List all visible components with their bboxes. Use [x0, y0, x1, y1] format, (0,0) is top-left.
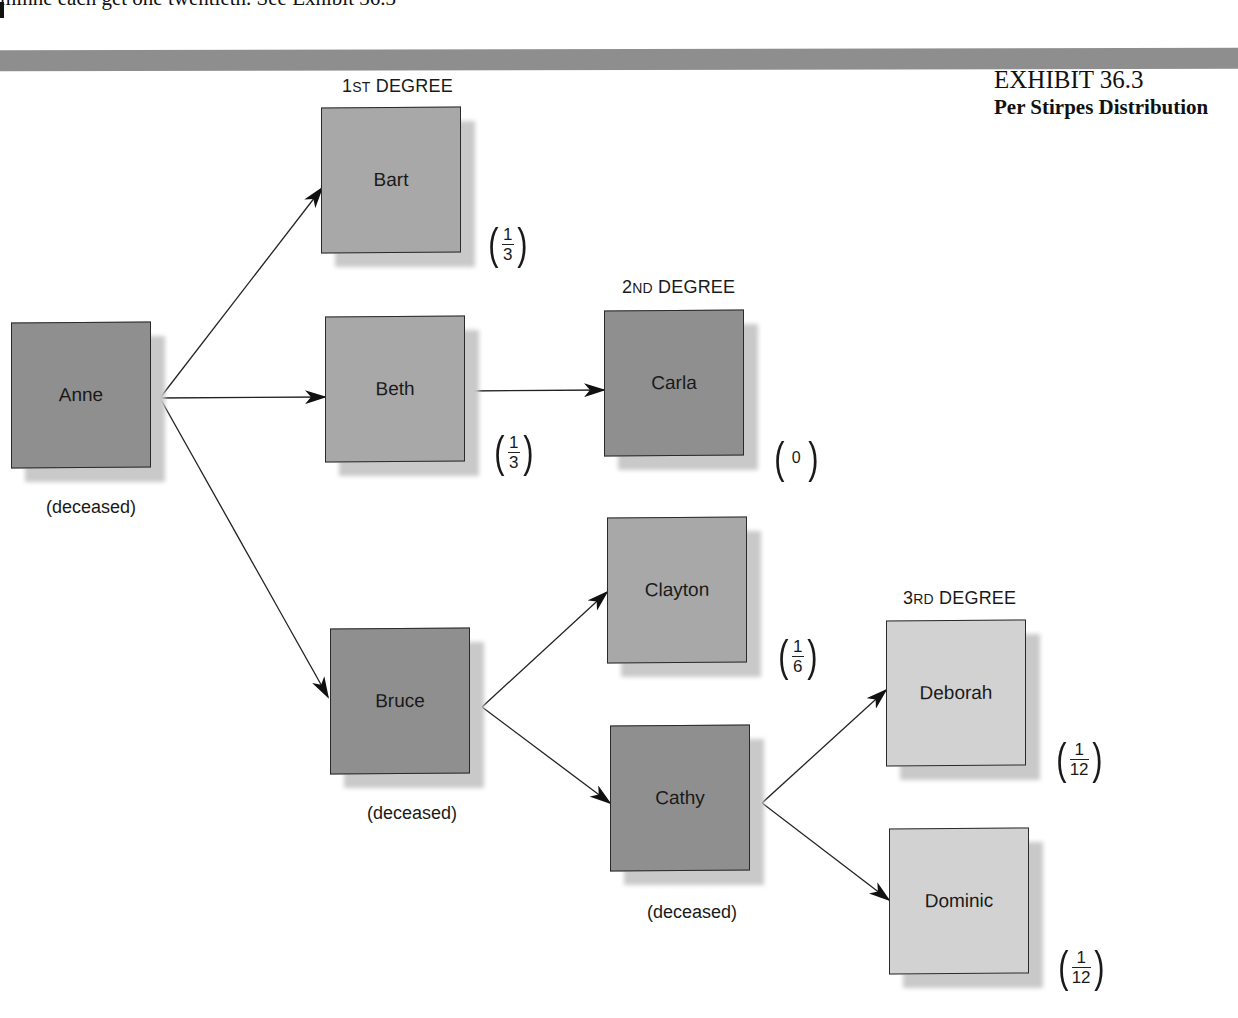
heading-first-degree: 1ST DEGREE: [342, 76, 453, 97]
arrow-anne-bart: [160, 188, 322, 398]
node-bart: Bart: [321, 107, 461, 253]
person-name: Cathy: [655, 787, 705, 809]
share-beth: ( 13 ): [492, 430, 535, 474]
numerator: 1: [1076, 948, 1085, 967]
person-name: Dominic: [925, 890, 994, 912]
person-box: Deborah: [886, 620, 1026, 767]
arrow-bruce-clayton: [482, 592, 607, 707]
person-box: Bruce: [330, 628, 470, 775]
fraction: 13: [507, 433, 521, 472]
paren-close: ): [523, 430, 533, 474]
fraction: 112: [1069, 740, 1090, 779]
person-box: Dominic: [889, 828, 1029, 975]
paren-open: (: [494, 430, 504, 474]
cathy-deceased-label: (deceased): [647, 902, 737, 923]
person-name: Beth: [375, 378, 414, 400]
heading-third-degree: 3RD DEGREE: [903, 588, 1016, 609]
numerator: 1: [503, 225, 512, 244]
degree-suffix: ST: [352, 79, 370, 95]
arrow-cathy-deborah: [762, 690, 886, 803]
person-box: Bart: [321, 107, 461, 254]
node-clayton: Clayton: [607, 517, 747, 663]
node-cathy: Cathy: [610, 725, 750, 871]
person-box: Carla: [604, 310, 744, 457]
numerator: 1: [1074, 740, 1083, 759]
numerator: 1: [509, 433, 518, 452]
share-carla: ( 0 ): [772, 436, 820, 480]
paren-open: (: [488, 222, 498, 266]
paren-close: ): [808, 436, 818, 480]
denominator: 12: [1070, 760, 1089, 779]
person-name: Carla: [651, 372, 696, 394]
person-box: Clayton: [607, 517, 747, 664]
degree-suffix: RD: [913, 591, 934, 607]
node-beth: Beth: [325, 316, 465, 462]
paren-close: ): [1094, 945, 1104, 989]
fraction: 16: [791, 637, 805, 676]
degree-word: DEGREE: [934, 588, 1016, 608]
anne-deceased-label: (deceased): [46, 497, 136, 518]
arrow-anne-bruce: [160, 398, 328, 697]
denominator: 3: [503, 245, 512, 264]
arrow-beth-carla: [466, 390, 604, 391]
share-dominic: ( 112 ): [1056, 945, 1106, 989]
person-name: Clayton: [645, 579, 709, 601]
denominator: 3: [509, 453, 518, 472]
share-value: 0: [787, 449, 806, 467]
person-name: Deborah: [920, 682, 993, 705]
fraction: 13: [501, 225, 515, 264]
degree-word: DEGREE: [371, 76, 453, 96]
arrow-bruce-cathy: [482, 707, 610, 803]
node-carla: Carla: [604, 310, 744, 456]
paren-open: (: [774, 436, 784, 480]
paren-open: (: [1056, 737, 1066, 781]
paren-open: (: [778, 634, 788, 678]
denominator: 6: [793, 657, 802, 676]
share-bart: ( 13 ): [486, 222, 529, 266]
person-name: Bruce: [375, 690, 425, 712]
person-name: Anne: [59, 384, 103, 406]
share-deborah: ( 112 ): [1054, 737, 1104, 781]
paren-close: ): [807, 634, 817, 678]
person-name: Bart: [374, 169, 409, 191]
paren-open: (: [1058, 945, 1068, 989]
heading-second-degree: 2ND DEGREE: [622, 277, 735, 298]
paren-close: ): [517, 222, 527, 266]
degree-word: DEGREE: [653, 277, 735, 297]
bruce-deceased-label: (deceased): [367, 803, 457, 824]
degree-suffix: ND: [632, 280, 653, 296]
denominator: 12: [1072, 968, 1091, 987]
node-bruce: Bruce: [330, 628, 470, 774]
share-clayton: ( 16 ): [776, 634, 819, 678]
degree-number: 3: [903, 588, 913, 608]
person-box: Anne: [11, 322, 151, 469]
paren-close: ): [1092, 737, 1102, 781]
degree-number: 2: [622, 277, 632, 297]
arrow-anne-beth: [160, 397, 325, 398]
person-box: Cathy: [610, 725, 750, 872]
fraction: 112: [1071, 948, 1092, 987]
node-dominic: Dominic: [889, 828, 1029, 974]
numerator: 1: [793, 637, 802, 656]
degree-number: 1: [342, 76, 352, 96]
node-deborah: Deborah: [886, 620, 1026, 766]
node-anne: Anne: [11, 322, 151, 468]
arrow-cathy-dominic: [762, 803, 889, 900]
person-box: Beth: [325, 316, 465, 463]
